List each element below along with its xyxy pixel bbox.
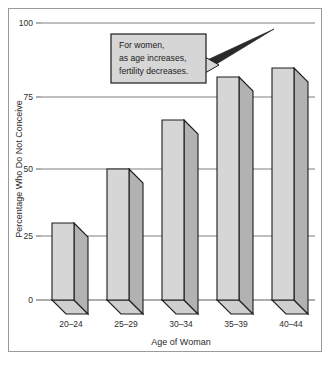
x-axis-title: Age of Woman xyxy=(151,337,210,347)
x-tick-label-25-29: 25–29 xyxy=(114,319,138,329)
y-tick-label-75: 75 xyxy=(24,92,34,102)
y-tick-label-100: 100 xyxy=(19,18,33,28)
bar-group-20-24[interactable] xyxy=(52,223,88,314)
y-tick-label-0: 0 xyxy=(28,295,33,305)
x-tick-label-35-39: 35–39 xyxy=(224,319,248,329)
callout-text-line-2: as age increases, xyxy=(119,53,186,63)
bar-front-25-29 xyxy=(107,169,129,300)
bar-group-25-29[interactable] xyxy=(107,169,143,314)
bar-front-40-44 xyxy=(272,68,294,300)
callout-annotation: For women, as age increases, fertility d… xyxy=(111,29,274,83)
y-tick-label-25: 25 xyxy=(24,231,34,241)
callout-text-line-3: fertility decreases. xyxy=(119,66,188,76)
y-tickmarks-group xyxy=(36,23,41,300)
x-tick-labels-group: 20–24 25–29 30–34 35–39 40–44 xyxy=(59,319,303,329)
callout-text-line-1: For women, xyxy=(119,40,164,50)
x-tick-label-30-34: 30–34 xyxy=(169,319,193,329)
bar-group-30-34[interactable] xyxy=(162,120,198,314)
bar-side-30-34 xyxy=(184,120,198,314)
bar-chart-plot: 100 75 50 25 0 Percentage Who Do Not Con… xyxy=(9,9,321,351)
bar-front-30-34 xyxy=(162,120,184,300)
y-tick-label-50: 50 xyxy=(24,164,34,174)
y-axis-title: Percentage Who Do Not Conceive xyxy=(14,100,24,238)
bar-front-35-39 xyxy=(217,77,239,300)
bar-side-35-39 xyxy=(239,77,253,314)
x-tick-label-20-24: 20–24 xyxy=(59,319,83,329)
bar-group-35-39[interactable] xyxy=(217,77,253,314)
bar-group-40-44[interactable] xyxy=(272,68,308,314)
bar-side-20-24 xyxy=(74,223,88,314)
bar-front-20-24 xyxy=(52,223,74,300)
chart-frame-border: 100 75 50 25 0 Percentage Who Do Not Con… xyxy=(8,8,322,352)
x-tick-label-40-44: 40–44 xyxy=(279,319,303,329)
bar-side-40-44 xyxy=(294,68,308,314)
bar-side-25-29 xyxy=(129,169,143,314)
figure-root: 100 75 50 25 0 Percentage Who Do Not Con… xyxy=(0,0,333,367)
